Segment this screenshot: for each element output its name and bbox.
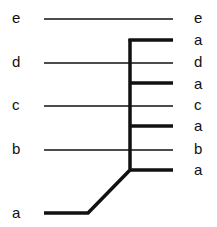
right-label-a1: a (194, 32, 202, 47)
left-label-c: c (12, 97, 20, 112)
right-label-b: b (194, 141, 202, 156)
left-label-a: a (12, 205, 20, 220)
right-label-d: d (194, 54, 202, 69)
left-label-b: b (12, 141, 20, 156)
diagram-canvas (0, 0, 217, 227)
left-label-e: e (12, 10, 20, 25)
right-label-a2: a (194, 76, 202, 91)
right-label-e: e (194, 10, 202, 25)
right-label-a4: a (194, 162, 202, 177)
left-label-d: d (12, 54, 20, 69)
right-label-a3: a (194, 118, 202, 133)
right-label-c: c (194, 97, 202, 112)
a-branch-trunk (44, 39, 130, 213)
